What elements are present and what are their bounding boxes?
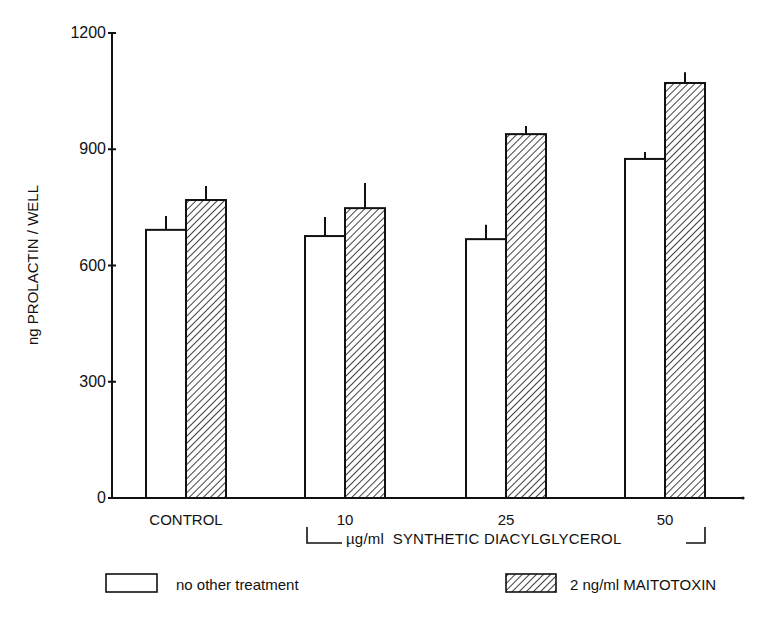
bar-maitotoxin [506,134,546,498]
y-tick-0: 0 [46,489,106,507]
bracket-left [307,527,342,543]
y-tick-300: 300 [46,373,106,391]
y-tick-1200: 1200 [46,24,106,42]
x-category-10: 10 [285,511,405,528]
y-axis-title: ng PROLACTIN / WELL [24,185,41,345]
y-tick-600: 600 [46,257,106,275]
legend-swatch-no-treatment [106,574,157,592]
x-bracket-label: µg/ml SYNTHETIC DIACYLGLYCEROL [346,530,621,547]
x-category-25: 25 [446,511,566,528]
bars [146,72,705,498]
x-axis-end-dot [741,496,744,499]
bar-no-treatment [305,236,345,498]
y-tick-900: 900 [46,140,106,158]
x-category-control: CONTROL [126,511,246,528]
legend-label-no-treatment: no other treatment [176,576,299,593]
bracket-right [686,527,705,543]
bar-no-treatment [146,230,186,498]
bar-maitotoxin [345,208,385,498]
legend-swatches [106,574,556,592]
x-category-50: 50 [605,511,725,528]
bar-no-treatment [466,239,506,498]
legend-swatch-maitotoxin [506,574,556,592]
bar-maitotoxin [665,83,705,498]
legend-label-maitotoxin: 2 ng/ml MAITOTOXIN [570,576,716,593]
bar-no-treatment [625,159,665,498]
bar-maitotoxin [186,200,226,498]
